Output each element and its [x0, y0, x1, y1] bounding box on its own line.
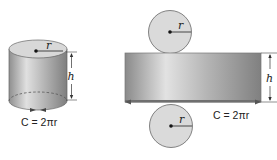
- rectangle-bottom-edge: [125, 100, 261, 103]
- rectangle-width-label: C = 2πr: [213, 109, 250, 121]
- cylinder-net-diagram: r h C = 2πr r r: [0, 0, 277, 160]
- cylinder-circumference-label: C = 2πr: [21, 116, 58, 128]
- cylinder-height-label: h: [68, 70, 75, 83]
- arrowhead-icon: [268, 97, 271, 101]
- arrowhead-icon: [70, 53, 73, 57]
- cylinder-top-face: [9, 40, 67, 58]
- cylinder-radius-label: r: [46, 39, 52, 52]
- cylinder-3d: r h C = 2πr: [9, 39, 77, 128]
- bottom-circle-radius-label: r: [179, 113, 185, 126]
- top-circle-radius-label: r: [178, 19, 184, 32]
- cylinder-net: r r h C = 2πr: [125, 11, 277, 148]
- arrowhead-icon: [268, 54, 271, 58]
- rectangle-height-label: h: [266, 72, 273, 85]
- arrowhead-icon: [70, 95, 73, 99]
- net-rectangle: [125, 53, 261, 102]
